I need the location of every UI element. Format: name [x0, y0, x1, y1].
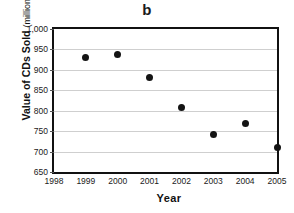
- y-tick-label: 900: [34, 65, 48, 74]
- x-tick-label: 1998: [45, 177, 64, 186]
- x-tick-label: 1999: [76, 177, 95, 186]
- y-tick-mark: [50, 49, 54, 50]
- y-tick-mark: [50, 172, 54, 173]
- y-tick-mark: [50, 131, 54, 132]
- y-tick-mark: [50, 111, 54, 112]
- x-tick-label: 2004: [236, 177, 255, 186]
- data-point[interactable]: [114, 51, 121, 58]
- x-tick-label: 2002: [172, 177, 191, 186]
- y-gridline: [54, 152, 277, 153]
- x-axis-title: Year: [50, 192, 288, 204]
- data-point[interactable]: [274, 144, 281, 151]
- y-tick-label: 750: [34, 127, 48, 136]
- data-point[interactable]: [178, 104, 185, 111]
- y-axis-title: Value of CDs Sold (millions): [18, 0, 34, 136]
- y-gridline: [54, 131, 277, 132]
- y-tick-mark: [50, 152, 54, 153]
- y-gridline: [54, 90, 277, 91]
- x-tick-label: 2005: [268, 177, 287, 186]
- y-gridline: [54, 49, 277, 50]
- data-point[interactable]: [242, 120, 249, 127]
- y-tick-label: 800: [34, 106, 48, 115]
- data-point[interactable]: [210, 131, 217, 138]
- chart-figure: b Value of CDs Sold (millions) 650700750…: [0, 0, 294, 213]
- data-point[interactable]: [82, 54, 89, 61]
- y-tick-label: 1,000: [27, 25, 48, 34]
- x-tick-label: 2001: [140, 177, 159, 186]
- plot-area: 6507007508008509009501,00019981999200020…: [52, 27, 279, 174]
- data-point[interactable]: [146, 74, 153, 81]
- panel-label: b: [0, 1, 294, 19]
- x-tick-label: 2003: [204, 177, 223, 186]
- y-gridline: [54, 111, 277, 112]
- y-tick-label: 700: [34, 147, 48, 156]
- y-tick-mark: [50, 29, 54, 30]
- y-tick-label: 950: [34, 45, 48, 54]
- y-tick-mark: [50, 70, 54, 71]
- x-tick-label: 2000: [108, 177, 127, 186]
- y-tick-label: 850: [34, 86, 48, 95]
- y-tick-mark: [50, 90, 54, 91]
- y-axis-title-text: Value of CDs Sold: [20, 31, 32, 121]
- y-gridline: [54, 70, 277, 71]
